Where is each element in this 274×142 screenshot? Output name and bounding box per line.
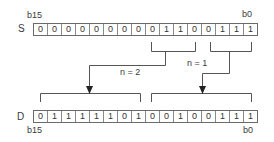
dest-bit-5: 1 bbox=[174, 111, 188, 122]
dest-bit-3: 0 bbox=[202, 111, 216, 122]
arrowhead-down-icon bbox=[199, 86, 206, 94]
dest-bit-7: 0 bbox=[146, 111, 160, 122]
dest-bracket-high bbox=[41, 94, 141, 103]
arrow-path-n1 bbox=[203, 52, 230, 88]
dest-bit-1: 1 bbox=[230, 111, 244, 122]
source-bracket-n1 bbox=[211, 42, 252, 52]
dest-bit-4: 0 bbox=[188, 111, 202, 122]
shift-label-n1: n = 1 bbox=[187, 59, 207, 68]
dest-bit-10: 1 bbox=[104, 111, 118, 122]
dest-register-name: D bbox=[17, 112, 24, 122]
dest-bit-9: 0 bbox=[118, 111, 132, 122]
dest-bit-15: 0 bbox=[34, 111, 48, 122]
dest-bit-14: 1 bbox=[48, 111, 62, 122]
dest-lsb-label: b0 bbox=[243, 126, 253, 135]
dest-msb-label: b15 bbox=[27, 126, 42, 135]
dest-bracket-low bbox=[152, 94, 252, 103]
dest-bit-6: 0 bbox=[160, 111, 174, 122]
dest-bit-12: 1 bbox=[76, 111, 90, 122]
arrowhead-down-icon bbox=[86, 86, 93, 94]
dest-bit-11: 1 bbox=[90, 111, 104, 122]
dest-bit-0: 1 bbox=[244, 111, 257, 122]
shift-label-n2: n = 2 bbox=[120, 68, 140, 77]
dest-bit-13: 1 bbox=[62, 111, 76, 122]
dest-bit-8: 1 bbox=[132, 111, 146, 122]
source-bracket-n2 bbox=[152, 42, 196, 52]
dest-register: 0 1 1 1 1 1 0 1 0 0 1 0 0 1 1 1 bbox=[33, 110, 258, 123]
dest-bit-2: 1 bbox=[216, 111, 230, 122]
